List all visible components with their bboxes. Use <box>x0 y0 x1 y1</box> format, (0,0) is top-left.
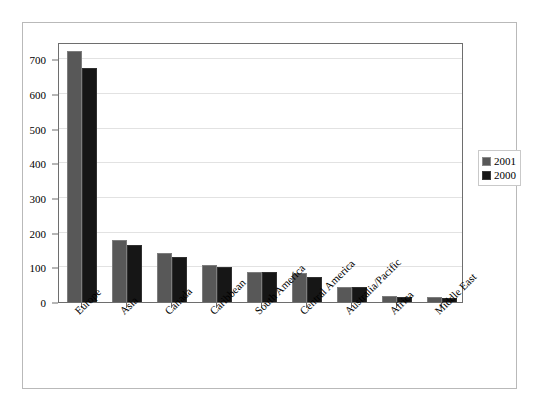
bar-2001 <box>247 272 262 302</box>
y-tick-label-700: 700 <box>30 55 47 66</box>
y-tick-label-400: 400 <box>30 159 47 170</box>
y-tick-label-100: 100 <box>30 263 47 274</box>
bar-2001 <box>157 253 172 302</box>
chart-canvas: 0100200300400500600700 EuropeAsiaCanadaC… <box>0 0 542 417</box>
chart-legend: 20012000 <box>478 150 521 186</box>
legend-swatch-icon <box>482 171 491 180</box>
bar-group <box>59 51 104 302</box>
bar-2001 <box>112 240 127 302</box>
x-axis-labels: EuropeAsiaCanadaCaribbeanSouth AmericaCe… <box>58 303 463 398</box>
y-tick-label-200: 200 <box>30 228 47 239</box>
legend-label: 2001 <box>494 156 516 167</box>
bar-2001 <box>202 265 217 302</box>
y-tick-label-300: 300 <box>30 194 47 205</box>
y-tick-label-0: 0 <box>41 298 47 309</box>
legend-item-2001[interactable]: 2001 <box>482 154 516 168</box>
bar-group <box>104 240 149 302</box>
y-tick-label-600: 600 <box>30 90 47 101</box>
legend-swatch-icon <box>482 157 491 166</box>
bar-2000 <box>127 245 142 302</box>
y-tick-label-500: 500 <box>30 124 47 135</box>
y-axis: 0100200300400500600700 <box>0 43 58 304</box>
bar-2000 <box>82 68 97 302</box>
legend-label: 2000 <box>494 170 516 181</box>
legend-item-2000[interactable]: 2000 <box>482 168 516 182</box>
bar-2001 <box>67 51 82 302</box>
